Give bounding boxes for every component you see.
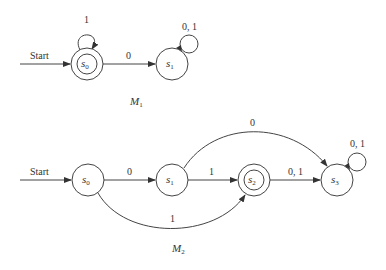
machine-m1: Start 1 0 0, 1 s0 s1 M1 bbox=[20, 14, 198, 109]
m1-s1-loop-label: 0, 1 bbox=[182, 21, 197, 32]
fsm-diagram: Start 1 0 0, 1 s0 s1 M1 Start 0 bbox=[0, 0, 386, 270]
m2-s3-loop-label: 0, 1 bbox=[350, 138, 365, 149]
m2-state-s0: s0 bbox=[72, 164, 104, 196]
m1-name: M1 bbox=[129, 95, 143, 109]
m1-s0-loop-label: 1 bbox=[84, 14, 89, 25]
m2-s1-s3-label: 0 bbox=[250, 117, 255, 128]
m1-state-s0: s0 bbox=[71, 48, 103, 80]
m1-s1-loop bbox=[180, 35, 198, 53]
m2-s2-s3-label: 0, 1 bbox=[288, 166, 303, 177]
m1-s0-s1-label: 0 bbox=[126, 50, 131, 61]
m2-state-s1: s1 bbox=[156, 164, 188, 196]
m2-state-s2: s2 bbox=[238, 164, 270, 196]
m2-s0-s1-label: 0 bbox=[127, 166, 132, 177]
m1-start-label: Start bbox=[30, 50, 49, 61]
m1-state-s1: s1 bbox=[156, 48, 188, 80]
machine-m2: Start 0 1 0, 1 0 1 0, 1 s0 s1 bbox=[20, 117, 366, 256]
m2-s1-s2-label: 1 bbox=[209, 166, 214, 177]
m2-s0-s2-label: 1 bbox=[170, 213, 175, 224]
m2-s1-s3-arc bbox=[184, 132, 327, 168]
m2-name: M2 bbox=[171, 242, 185, 256]
m2-s3-loop bbox=[348, 153, 366, 171]
m2-start-label: Start bbox=[30, 166, 49, 177]
m2-state-s3: s3 bbox=[321, 164, 353, 196]
